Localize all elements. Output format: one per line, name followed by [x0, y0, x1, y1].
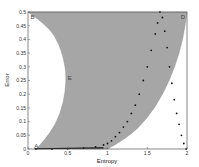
point-label-b: B: [30, 14, 34, 20]
data-point: [166, 47, 168, 49]
data-point: [161, 17, 163, 19]
x-axis-label: Entropy: [97, 158, 118, 164]
x-tick-label: 0.5: [64, 150, 71, 156]
data-point: [150, 49, 152, 51]
data-point: [169, 66, 171, 68]
region-shape: [28, 12, 187, 149]
data-point: [157, 22, 159, 24]
y-tick-label: 0.45: [16, 23, 26, 29]
y-tick-label: 0: [23, 146, 26, 152]
chart: 00.511.52 00.050.10.150.20.250.30.350.40…: [0, 0, 199, 167]
baseline-dots: [34, 148, 103, 149]
y-axis-label: Error: [4, 73, 10, 86]
data-point: [178, 123, 180, 125]
data-point: [103, 144, 105, 146]
y-tick-label: 0.1: [19, 118, 26, 124]
y-tick-label: 0.3: [19, 64, 26, 70]
point-label-e: E: [68, 75, 72, 81]
y-tick-label: 0.25: [16, 77, 26, 83]
data-point: [176, 112, 178, 114]
data-point: [138, 93, 140, 95]
data-point: [164, 30, 166, 32]
data-point: [154, 33, 156, 35]
data-point: [181, 134, 183, 136]
x-tick-label: 0: [27, 150, 30, 156]
data-point: [134, 104, 136, 106]
data-point: [183, 143, 185, 145]
y-tick-label: 0.5: [19, 9, 26, 15]
y-tick-label: 0.15: [16, 105, 26, 111]
data-point: [130, 112, 132, 114]
x-tick-label: 1.5: [144, 150, 151, 156]
data-point: [146, 66, 148, 68]
y-tick-label: 0.05: [16, 132, 26, 138]
data-point: [115, 136, 117, 138]
data-point: [126, 121, 128, 123]
y-tick-label: 0.2: [19, 91, 26, 97]
data-point: [142, 80, 144, 82]
y-tick-label: 0.35: [16, 50, 26, 56]
y-tick-label: 0.4: [19, 36, 26, 42]
feasible-region: [28, 12, 187, 149]
data-point: [119, 132, 121, 134]
data-point: [123, 126, 125, 128]
x-tick-label: 2: [186, 150, 189, 156]
data-point: [173, 99, 175, 101]
x-tick-label: 1: [106, 150, 109, 156]
point-label-d: D: [181, 14, 186, 20]
data-point: [111, 140, 113, 142]
data-point: [107, 143, 109, 145]
data-point: [171, 82, 173, 84]
point-label-a: A: [34, 143, 38, 149]
